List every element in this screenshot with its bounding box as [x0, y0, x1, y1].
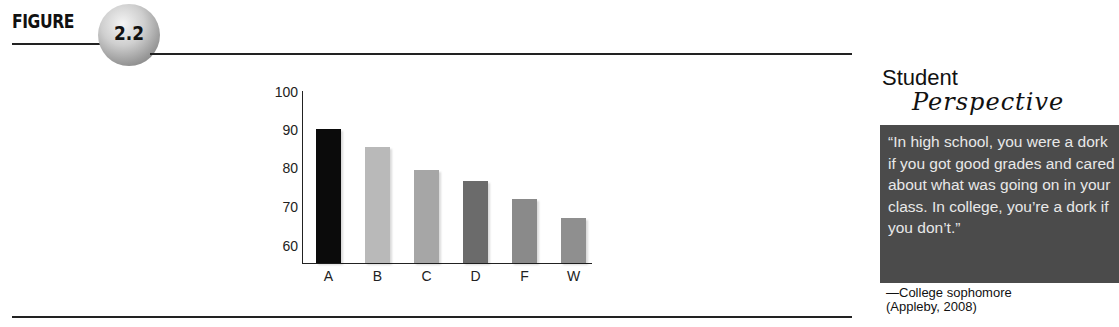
x-tick-label: F: [512, 268, 537, 284]
y-axis: [302, 91, 303, 264]
figure-number-badge: 2.2: [98, 4, 160, 66]
figure-number: 2.2: [103, 21, 156, 45]
student-perspective-script-title: Perspective: [912, 88, 1064, 116]
bar-f: [512, 199, 537, 263]
figure-rule-bottom: [12, 316, 852, 318]
bar-a: [316, 129, 341, 263]
quote-attribution: —College sophomore (Appleby, 2008): [886, 286, 1012, 314]
x-tick-label: C: [414, 268, 439, 284]
bar-w: [561, 218, 586, 263]
y-tick-label: 100: [262, 84, 298, 100]
x-tick-label: W: [561, 268, 586, 284]
y-tick-label: 70: [262, 199, 298, 215]
quote-box: “In high school, you were a dork if you …: [880, 125, 1119, 283]
figure-rule-top: [150, 53, 852, 55]
y-tick-label: 60: [262, 238, 298, 254]
y-tick-label: 80: [262, 160, 298, 176]
attribution-citation: (Appleby, 2008): [886, 300, 1012, 314]
y-tick-label: 90: [262, 122, 298, 138]
bar-d: [463, 181, 488, 263]
figure-label: FIGURE: [12, 10, 74, 32]
attribution-source: —College sophomore: [886, 286, 1012, 300]
figure-rule-left: [12, 43, 100, 45]
x-tick-label: B: [365, 268, 390, 284]
bar-c: [414, 170, 439, 263]
bar-b: [365, 147, 390, 263]
x-axis: [302, 263, 592, 264]
x-tick-label: A: [316, 268, 341, 284]
grade-bar-chart: 100 90 80 70 60 ABCDFW: [262, 84, 602, 294]
x-tick-label: D: [463, 268, 488, 284]
quote-text: “In high school, you were a dork if you …: [888, 131, 1119, 239]
